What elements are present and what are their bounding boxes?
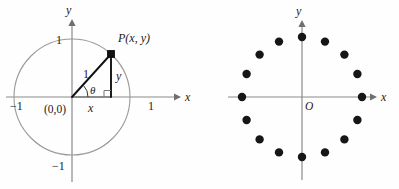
right-x-axis-label: x (380, 90, 387, 104)
root-point (255, 50, 263, 58)
point-P-label: P(x, y) (117, 31, 150, 45)
left-y-axis-label: y (65, 3, 72, 17)
horizontal-leg-label: x (87, 101, 94, 115)
root-point (255, 135, 263, 143)
vertical-leg-label: y (115, 69, 122, 83)
root-point (275, 148, 283, 156)
y-tick-negative-one: −1 (52, 159, 65, 173)
y-tick-positive-one: 1 (56, 33, 62, 47)
x-tick-positive-one: 1 (148, 99, 154, 113)
x-tick-negative-one: −1 (10, 99, 23, 113)
root-point (242, 70, 250, 78)
origin-label: (0,0) (44, 103, 66, 116)
root-point (238, 93, 246, 101)
left-panel-group: P(x, y) (0,0) 1 θ y x −1 1 1 −1 x y (6, 3, 191, 182)
root-point (340, 135, 348, 143)
theta-arc (84, 86, 89, 98)
right-x-axis-arrowhead (370, 93, 377, 100)
root-point (275, 37, 283, 45)
root-point (298, 33, 306, 41)
right-panel-group: O x y (228, 4, 387, 180)
point-P-marker (108, 51, 115, 58)
right-y-axis-arrowhead (298, 20, 305, 27)
root-point (321, 37, 329, 45)
left-y-axis-arrowhead (68, 19, 75, 26)
root-point (353, 116, 361, 124)
root-point (340, 50, 348, 58)
right-angle-marker (104, 91, 111, 98)
left-x-axis-label: x (184, 90, 191, 104)
figure-svg: P(x, y) (0,0) 1 θ y x −1 1 1 −1 x y (0, 0, 399, 189)
root-point (298, 153, 306, 161)
root-point (321, 148, 329, 156)
right-y-axis-label: y (295, 4, 302, 18)
root-point (353, 70, 361, 78)
left-x-axis-arrowhead (174, 93, 181, 100)
root-point (242, 116, 250, 124)
hypotenuse-length-label: 1 (83, 67, 89, 81)
figure-container: P(x, y) (0,0) 1 θ y x −1 1 1 −1 x y (0, 0, 399, 189)
root-point (358, 93, 366, 101)
theta-label: θ (90, 84, 96, 96)
right-origin-label: O (305, 100, 314, 112)
